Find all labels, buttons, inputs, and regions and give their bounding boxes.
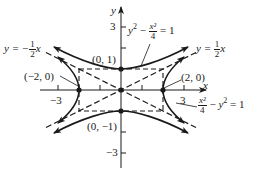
leader-right-vertex [164, 80, 181, 88]
equation-horizontal-hyperbola: x²4 − y2 = 1 [198, 96, 245, 115]
eq-lower-rhs: = 1 [230, 98, 244, 110]
eq-upper-fraction: x²4 [149, 22, 158, 41]
vertex-bottom [118, 108, 123, 113]
eq-upper-den: 4 [149, 32, 158, 41]
hyperbola-bottom-branch [121, 111, 188, 133]
asym-pos-prefix: y = [196, 42, 211, 54]
point-label-top: (0, 1) [92, 54, 116, 65]
asym-neg-prefix: y = − [4, 42, 29, 54]
eq-lower-exp: 2 [223, 96, 227, 105]
equation-vertical-hyperbola: y2 − x²4 = 1 [128, 22, 175, 41]
eq-lower-fraction: x²4 [198, 96, 207, 115]
eq-upper-minus: − [140, 24, 146, 36]
leader-upper-equation [141, 44, 150, 66]
y-tick-label-3: 3 [110, 21, 116, 32]
x-tick-label-3: 3 [180, 95, 186, 106]
vertex-left [76, 87, 81, 92]
vertex-right [160, 87, 165, 92]
point-label-right: (2, 0) [181, 72, 205, 83]
asymptote-label-positive: y = 12x [196, 40, 225, 59]
point-label-bottom: (0, −1) [87, 121, 117, 132]
asym-neg-suffix: x [36, 42, 41, 54]
eq-lower-minus: − [209, 98, 215, 110]
asym-pos-suffix: x [220, 42, 225, 54]
x-tick-label-neg3: −3 [50, 95, 62, 106]
hyperbola-top-branch [121, 47, 188, 69]
asymptote-label-negative: y = −12x [4, 40, 41, 59]
point-label-left: (−2, 0) [24, 71, 54, 82]
origin-point [118, 87, 123, 92]
eq-upper-exp: 2 [133, 22, 137, 31]
eq-lower-den: 4 [198, 106, 207, 115]
eq-upper-rhs: = 1 [160, 24, 174, 36]
y-tick-label-neg3: −3 [106, 147, 118, 158]
vertex-top [118, 66, 123, 71]
y-axis-label: y [111, 5, 116, 16]
